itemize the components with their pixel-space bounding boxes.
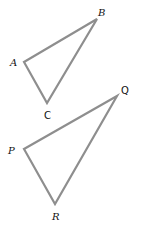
vertex-label-q: Q (121, 85, 129, 96)
similar-triangles-figure: A B C Q P R (0, 0, 141, 229)
triangle-abc (24, 19, 97, 103)
vertex-label-b: B (97, 7, 105, 18)
vertex-label-c: C (44, 110, 51, 121)
vertex-label-a: A (9, 57, 17, 68)
triangle-pqr (24, 96, 117, 204)
vertex-label-p: P (7, 145, 15, 156)
vertex-label-r: R (51, 211, 60, 222)
